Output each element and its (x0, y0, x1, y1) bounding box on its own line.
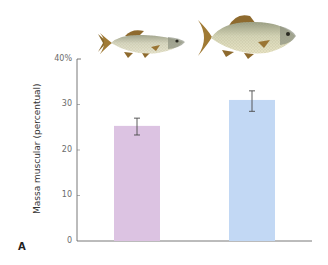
large-fish-illustration (198, 15, 296, 59)
y-tick-label-30: 30 (42, 99, 72, 108)
y-tick-label-40: 40% (42, 54, 72, 63)
y-axis (77, 59, 81, 241)
y-tick-label-10: 10 (42, 190, 72, 199)
bar-1 (114, 126, 160, 241)
bars (114, 91, 275, 241)
bar-chart (0, 0, 328, 265)
small-fish-illustration (98, 30, 185, 58)
panel-label: A (18, 241, 26, 252)
y-tick-label-20: 20 (42, 145, 72, 154)
y-axis-title: Massa muscular (percentual) (32, 84, 42, 214)
bar-2 (229, 100, 275, 241)
y-tick-label-0: 0 (42, 236, 72, 245)
